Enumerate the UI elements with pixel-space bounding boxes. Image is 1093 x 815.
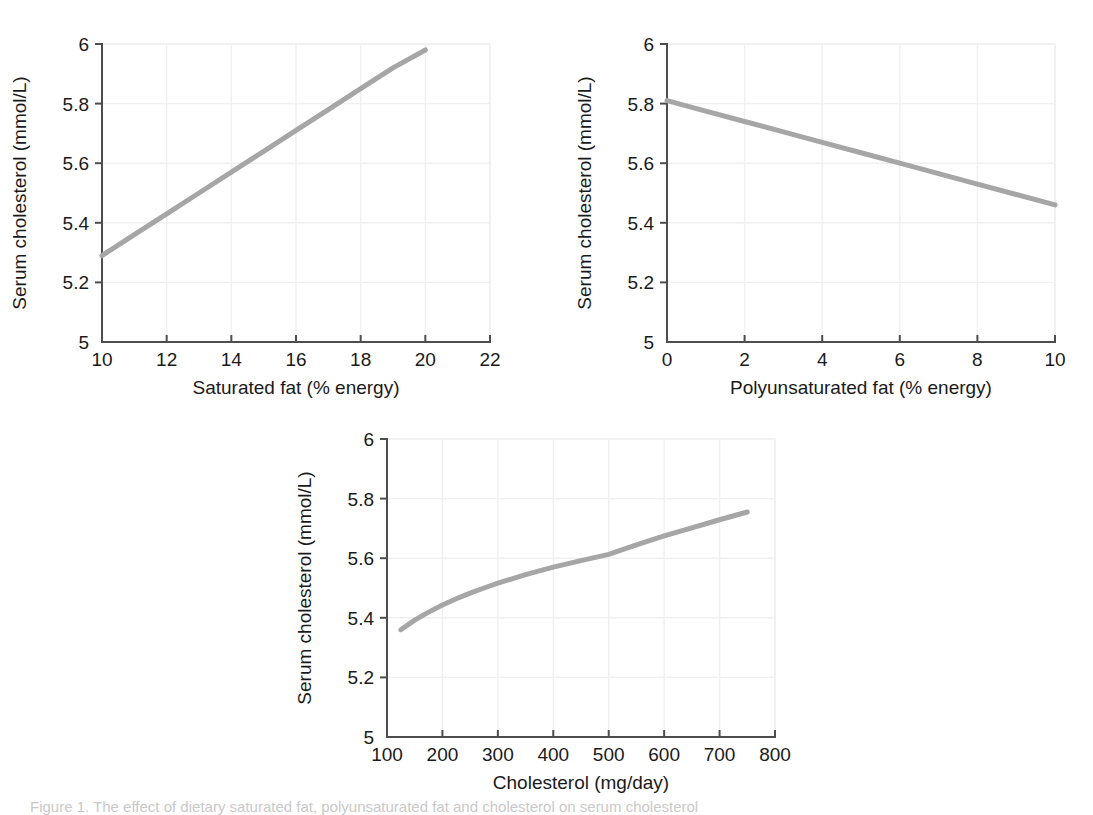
x-tick-label: 300 — [482, 744, 514, 765]
y-tick-label: 5.6 — [63, 153, 89, 174]
y-tick-label: 5.2 — [348, 667, 374, 688]
y-tick-label: 5.2 — [628, 272, 654, 293]
x-tick-label: 2 — [739, 349, 750, 370]
y-tick-labels: 55.25.45.65.86 — [348, 429, 375, 748]
x-axis-ticks — [442, 730, 775, 737]
y-axis-ticks — [380, 439, 387, 677]
y-tick-label: 5.4 — [348, 608, 375, 629]
x-tick-label: 4 — [817, 349, 828, 370]
x-tick-label: 6 — [895, 349, 906, 370]
x-tick-label: 22 — [479, 349, 500, 370]
saturated-fat-line-chart: 55.25.45.65.86 10121416182022 Serum chol… — [0, 0, 520, 400]
y-axis-ticks — [660, 44, 667, 282]
x-tick-label: 14 — [221, 349, 243, 370]
y-tick-labels: 55.25.45.65.86 — [63, 34, 90, 353]
x-tick-label: 200 — [427, 744, 459, 765]
y-tick-label: 5.6 — [628, 153, 654, 174]
grid-lines — [102, 44, 490, 342]
data-series-line — [102, 50, 425, 256]
x-tick-label: 8 — [972, 349, 983, 370]
y-tick-label: 5.8 — [628, 94, 654, 115]
chart-panel-cholesterol: 55.25.45.65.86 100200300400500600700800 … — [285, 395, 805, 795]
y-axis-title: Serum cholesterol (mmol/L) — [574, 76, 595, 309]
x-tick-label: 0 — [662, 349, 673, 370]
y-tick-labels: 55.25.45.65.86 — [628, 34, 655, 353]
y-axis-title: Serum cholesterol (mmol/L) — [294, 471, 315, 704]
y-tick-label: 5.2 — [63, 272, 89, 293]
grid-lines — [667, 44, 1055, 342]
x-tick-label: 500 — [593, 744, 625, 765]
axis-lines — [387, 439, 775, 737]
axis-lines — [667, 44, 1055, 342]
y-tick-label: 6 — [363, 429, 374, 450]
x-tick-label: 12 — [156, 349, 177, 370]
x-tick-labels: 0246810 — [662, 349, 1066, 370]
x-tick-label: 18 — [350, 349, 371, 370]
x-tick-label: 800 — [759, 744, 791, 765]
x-tick-labels: 100200300400500600700800 — [371, 744, 791, 765]
x-axis-ticks — [745, 335, 1055, 342]
chart-panel-saturated-fat: 55.25.45.65.86 10121416182022 Serum chol… — [0, 0, 520, 400]
y-axis-title: Serum cholesterol (mmol/L) — [9, 76, 30, 309]
y-tick-label: 5.8 — [348, 489, 374, 510]
cholesterol-line-chart: 55.25.45.65.86 100200300400500600700800 … — [285, 395, 805, 795]
x-tick-label: 600 — [648, 744, 680, 765]
figure-caption: Figure 1. The effect of dietary saturate… — [0, 797, 1093, 815]
y-tick-label: 5.6 — [348, 548, 374, 569]
x-tick-labels: 10121416182022 — [91, 349, 500, 370]
y-tick-label: 6 — [643, 34, 654, 55]
data-series-line — [401, 512, 747, 630]
y-axis-ticks — [95, 44, 102, 282]
grid-lines — [387, 439, 775, 737]
x-axis-title: Cholesterol (mg/day) — [493, 772, 669, 793]
y-tick-label: 5.8 — [63, 94, 89, 115]
x-tick-label: 16 — [285, 349, 306, 370]
polyunsaturated-fat-line-chart: 55.25.45.65.86 0246810 Serum cholesterol… — [565, 0, 1085, 400]
x-tick-label: 700 — [704, 744, 736, 765]
x-tick-label: 10 — [91, 349, 112, 370]
x-axis-ticks — [167, 335, 490, 342]
y-tick-label: 5 — [643, 332, 654, 353]
x-tick-label: 400 — [537, 744, 569, 765]
y-tick-label: 6 — [78, 34, 89, 55]
y-tick-label: 5 — [78, 332, 89, 353]
y-tick-label: 5.4 — [63, 213, 90, 234]
chart-panel-polyunsaturated-fat: 55.25.45.65.86 0246810 Serum cholesterol… — [565, 0, 1085, 400]
x-tick-label: 20 — [415, 349, 436, 370]
data-series-line — [667, 101, 1055, 205]
y-tick-label: 5.4 — [628, 213, 655, 234]
x-tick-label: 10 — [1044, 349, 1065, 370]
x-tick-label: 100 — [371, 744, 403, 765]
